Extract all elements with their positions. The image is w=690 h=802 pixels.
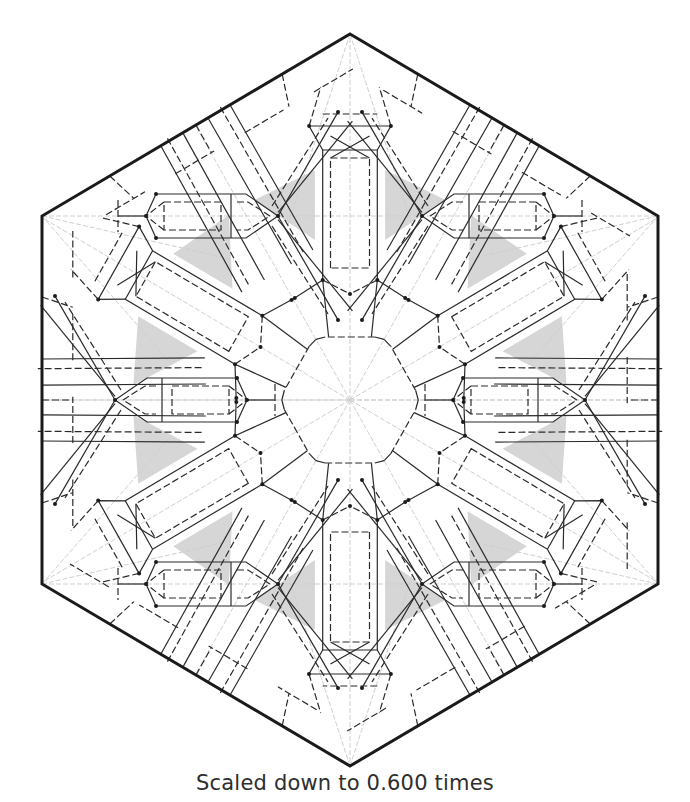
reference-creases [41, 34, 659, 766]
scale-caption: Scaled down to 0.600 times [0, 771, 690, 795]
crease-pattern-diagram [0, 0, 690, 770]
